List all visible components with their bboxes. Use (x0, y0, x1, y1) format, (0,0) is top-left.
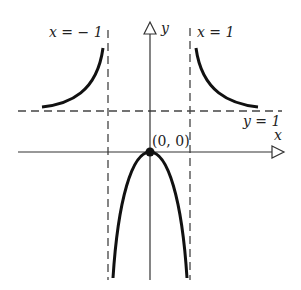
graph-canvas (0, 0, 301, 290)
curve-right-branch (196, 48, 258, 107)
label-origin: (0, 0) (152, 134, 190, 148)
label-asymptote-horizontal: y = 1 (243, 114, 280, 128)
label-y-axis: y (161, 21, 169, 35)
label-asymptote-left: x = − 1 (49, 25, 103, 39)
x-axis-arrow-icon (272, 146, 284, 158)
curve-left-branch (42, 48, 103, 107)
label-asymptote-right: x = 1 (197, 25, 234, 39)
label-x-axis: x (274, 128, 282, 142)
y-axis-arrow-icon (144, 22, 156, 34)
